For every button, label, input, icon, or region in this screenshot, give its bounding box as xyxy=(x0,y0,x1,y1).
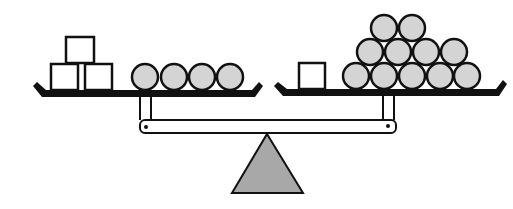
right-pan-balls xyxy=(343,15,480,89)
ball-weight xyxy=(385,39,411,65)
right-support xyxy=(383,96,394,120)
ball-weight xyxy=(371,63,397,89)
ball-weight xyxy=(217,64,243,90)
left-pivot-icon xyxy=(144,125,148,129)
box-weight xyxy=(85,64,112,90)
ball-weight xyxy=(132,64,158,90)
ball-weight xyxy=(343,63,369,89)
ball-weight xyxy=(454,63,480,89)
box-weight xyxy=(66,37,94,63)
box-weight xyxy=(51,64,78,90)
right-pan-boxes xyxy=(299,63,325,89)
left-pan-balls xyxy=(132,64,243,90)
box-weight xyxy=(299,63,325,89)
ball-weight xyxy=(413,39,439,65)
fulcrum-triangle xyxy=(232,134,303,193)
ball-weight xyxy=(189,64,215,90)
left-support xyxy=(140,97,151,120)
balance-scale-diagram xyxy=(0,0,513,209)
ball-weight xyxy=(441,39,467,65)
ball-weight xyxy=(399,63,425,89)
ball-weight xyxy=(427,63,453,89)
left-pan-boxes xyxy=(51,37,112,90)
ball-weight xyxy=(371,15,397,41)
right-pivot-icon xyxy=(386,124,390,128)
ball-weight xyxy=(357,39,383,65)
balance-beam xyxy=(140,120,396,133)
ball-weight xyxy=(161,64,187,90)
ball-weight xyxy=(399,15,425,41)
